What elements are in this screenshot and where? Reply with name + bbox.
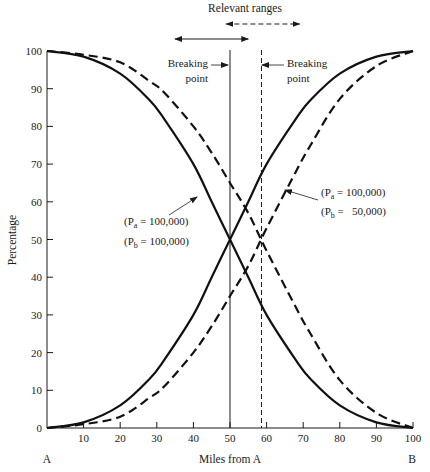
x-tick-label: 50 <box>225 432 237 444</box>
x-tick-label: 70 <box>298 432 310 444</box>
endpoint-label-b: B <box>408 453 416 465</box>
y-tick-label: 40 <box>31 271 43 283</box>
x-axis-title: Miles from A <box>199 453 262 465</box>
chart: Relevant ranges 0102030405060708090100 1… <box>0 0 430 472</box>
annotation-equal-leader <box>169 197 197 215</box>
y-tick-label: 60 <box>31 196 43 208</box>
x-tick-label: 30 <box>151 432 163 444</box>
y-tick-label: 10 <box>31 384 43 396</box>
annotation-unequal-pa: (Pa = 100,000) <box>321 186 386 201</box>
breaking-point-right-label-line1: Breaking <box>287 57 328 69</box>
y-tick-label: 30 <box>31 309 43 321</box>
y-tick-label: 50 <box>31 234 43 246</box>
annotation-equal-pa: (Pa = 100,000) <box>124 215 189 230</box>
relevant-ranges-title: Relevant ranges <box>208 2 282 15</box>
x-tick-label: 20 <box>115 432 127 444</box>
x-tick-label: 40 <box>188 432 200 444</box>
y-tick-label: 90 <box>31 83 43 95</box>
annotation-unequal-pb: (Pb = 50,000) <box>321 205 386 220</box>
breaking-point-left-label-line1: Breaking <box>168 57 209 69</box>
y-tick-label: 80 <box>31 120 43 132</box>
y-axis-title: Percentage <box>6 215 19 265</box>
x-tick-label: 90 <box>371 432 383 444</box>
y-tick-label: 20 <box>31 347 43 359</box>
breaking-point-left-label-line2: point <box>185 72 208 84</box>
breaking-point-right-label-line2: point <box>287 72 310 84</box>
annotation-equal-pb: (Pb = 100,000) <box>124 235 189 250</box>
annotation-unequal-leader <box>285 190 318 200</box>
x-tick-label: 10 <box>78 432 90 444</box>
x-tick-label: 60 <box>261 432 273 444</box>
y-tick-label: 0 <box>37 422 43 434</box>
annotation-equal-populations: (Pa = 100,000) (Pb = 100,000) <box>124 197 197 250</box>
y-tick-label: 100 <box>26 45 43 57</box>
y-ticks: 0102030405060708090100 <box>26 45 54 434</box>
annotation-unequal-populations: (Pa = 100,000) (Pb = 50,000) <box>285 186 386 220</box>
x-tick-label: 100 <box>405 432 422 444</box>
x-tick-label: 80 <box>334 432 346 444</box>
y-tick-label: 70 <box>31 158 43 170</box>
endpoint-label-a: A <box>43 453 52 465</box>
x-ticks: 102030405060708090100 <box>78 422 422 444</box>
